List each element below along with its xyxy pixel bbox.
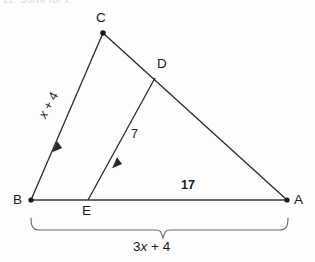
- segment-CA: [103, 33, 287, 200]
- vertex-label-D: D: [157, 57, 167, 71]
- vertex-dot-B: [28, 197, 33, 202]
- vertex-dot-A: [284, 197, 289, 202]
- vertex-dot-C: [100, 30, 106, 36]
- segment-ED: [88, 78, 155, 200]
- brace-label-rest: + 4: [147, 239, 170, 254]
- brace-label-coefficient: 3: [133, 239, 141, 254]
- vertex-label-E: E: [82, 204, 91, 218]
- triangle-diagram-svg: [0, 0, 315, 262]
- length-brace-BA: [31, 218, 288, 238]
- brace-length-label: 3x + 4: [133, 240, 170, 254]
- vertex-label-A: A: [294, 193, 303, 207]
- side-length-label-ed: 7: [131, 128, 138, 141]
- geometry-figure-canvas: 22. Solve for x. A B C D E x + 4 7 17 3x…: [0, 0, 315, 262]
- side-length-label-ea: 17: [181, 179, 195, 192]
- vertex-label-B: B: [13, 193, 22, 207]
- vertex-label-C: C: [96, 11, 106, 25]
- segment-ED-parallel-arrow-icon: [112, 157, 122, 168]
